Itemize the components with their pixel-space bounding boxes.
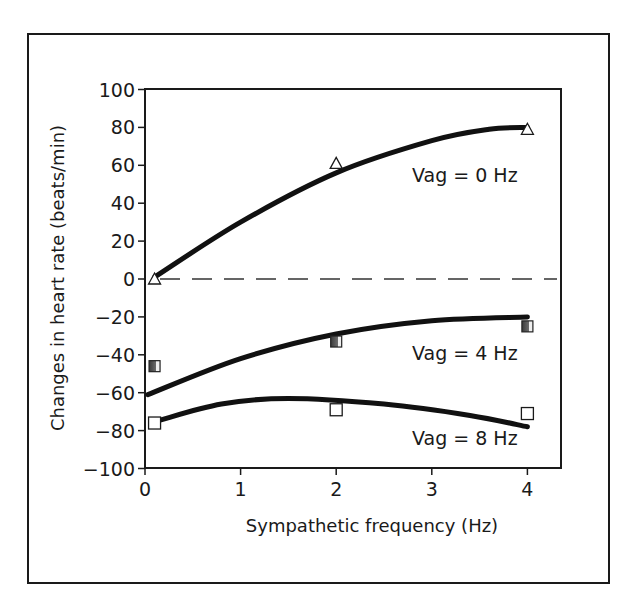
y-tick-label: −20 — [95, 306, 135, 328]
open-square-marker — [330, 404, 342, 416]
x-axis-title: Sympathetic frequency (Hz) — [246, 515, 498, 536]
series-vag-8-hz: Vag = 8 Hz — [149, 398, 534, 449]
y-tick-label: −100 — [83, 458, 135, 480]
y-axis-title: Changes in heart rate (beats/min) — [47, 125, 68, 431]
half-filled-square-marker — [522, 321, 533, 332]
series-vag-4-hz: Vag = 4 Hz — [148, 317, 533, 395]
y-tick-label: −60 — [95, 382, 135, 404]
half-filled-square-marker — [331, 336, 342, 347]
x-tick-label: 2 — [330, 478, 342, 500]
series-label: Vag = 4 Hz — [412, 342, 518, 364]
x-tick-label: 0 — [139, 478, 151, 500]
y-tick-label: 80 — [111, 116, 135, 138]
series-layer: Vag = 0 HzVag = 4 HzVag = 8 Hz — [148, 123, 534, 449]
series-vag-0-hz: Vag = 0 Hz — [149, 123, 534, 284]
y-axis: 100806040200−20−40−60−80−100 — [83, 79, 145, 480]
fit-curve — [155, 127, 528, 277]
x-axis: 01234 — [139, 468, 533, 500]
y-tick-label: 60 — [111, 154, 135, 176]
half-filled-square-marker — [149, 361, 160, 372]
y-tick-label: 20 — [111, 230, 135, 252]
x-tick-label: 4 — [521, 478, 533, 500]
y-tick-label: 100 — [99, 79, 135, 101]
heart-rate-chart: 100806040200−20−40−60−80−100 01234 Vag =… — [0, 0, 632, 608]
open-square-marker — [149, 417, 161, 429]
y-tick-label: −40 — [95, 344, 135, 366]
series-label: Vag = 8 Hz — [412, 427, 518, 449]
x-tick-label: 3 — [426, 478, 438, 500]
y-tick-label: 0 — [123, 268, 135, 290]
y-tick-label: −80 — [95, 420, 135, 442]
triangle-marker — [330, 157, 342, 168]
series-label: Vag = 0 Hz — [412, 164, 518, 186]
y-tick-label: 40 — [111, 192, 135, 214]
open-square-marker — [521, 408, 533, 420]
x-tick-label: 1 — [235, 478, 247, 500]
